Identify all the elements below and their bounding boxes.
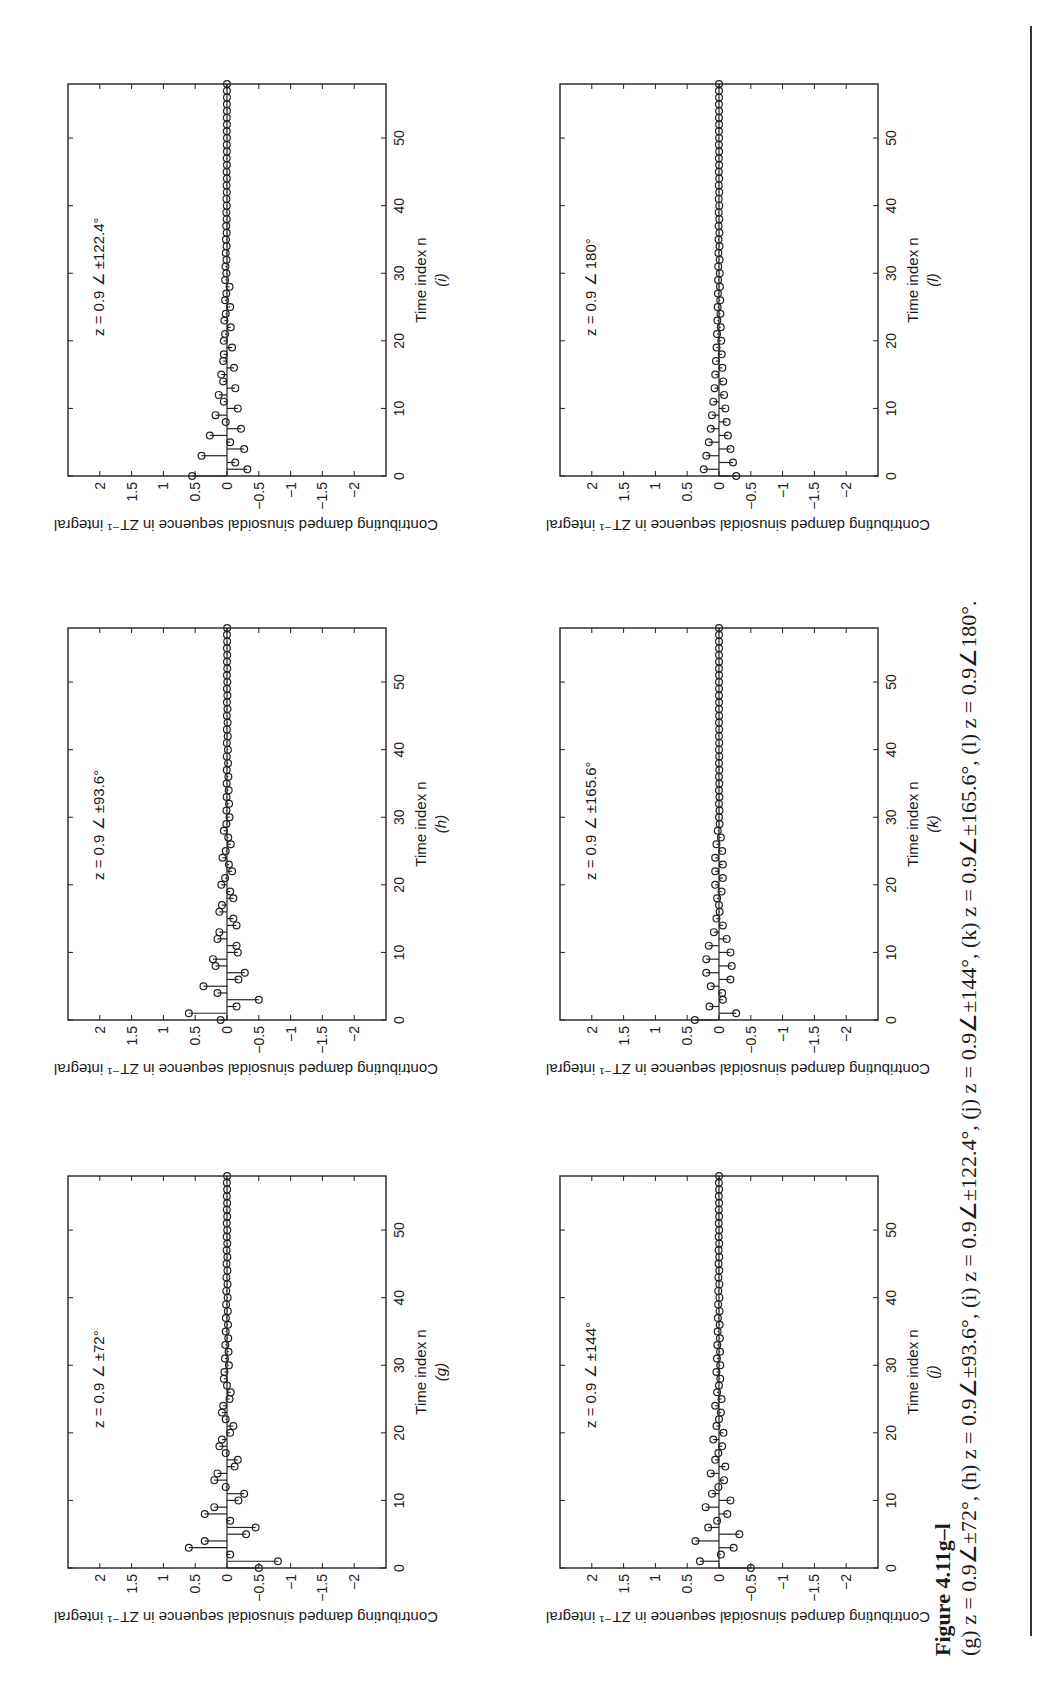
pole-annotation: z = 0.9 ∠ 180° — [582, 238, 600, 336]
y-tick-label: 1 — [647, 482, 663, 490]
figure-caption-text: (g) z = 0.9∠±72°, (h) z = 0.9∠±93.6°, (i… — [956, 36, 982, 1656]
y-tick-label: −0.5 — [743, 482, 759, 510]
y-tick-label: 1.5 — [616, 482, 632, 502]
y-tick-label: −1.5 — [806, 482, 822, 510]
stem-marker — [714, 317, 721, 324]
page-rule — [1030, 26, 1032, 1636]
x-tick-label: 20 — [883, 333, 899, 349]
y-tick-label: 2 — [584, 482, 600, 490]
y-tick-label: −2 — [838, 482, 854, 498]
x-tick-label: 0 — [883, 472, 899, 480]
y-tick-label: −1 — [775, 482, 791, 498]
y-tick-label: 0 — [711, 482, 727, 490]
figure-page: 21.510.50−0.5−1−1.5−201020304050Contribu… — [0, 0, 1054, 1696]
y-tick-label: 0.5 — [679, 482, 695, 502]
stem-marker — [715, 263, 722, 270]
figure-caption: Figure 4.11g–l (g) z = 0.9∠±72°, (h) z =… — [930, 36, 982, 1656]
figure-label: Figure 4.11g–l — [930, 36, 956, 1656]
x-tick-label: 40 — [883, 198, 899, 214]
y-axis-label: Contributing damped sinusoidal sequence … — [546, 516, 930, 534]
x-tick-label: 30 — [883, 265, 899, 281]
x-tick-label: 10 — [883, 400, 899, 416]
x-tick-label: 50 — [883, 130, 899, 146]
x-axis-label: Time index n — [904, 220, 921, 340]
plot-canvas: 21.510.50−0.5−1−1.5−201020304050 — [0, 0, 1054, 1696]
